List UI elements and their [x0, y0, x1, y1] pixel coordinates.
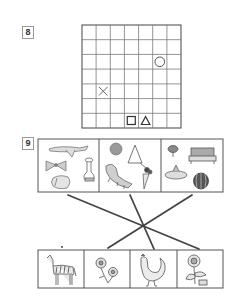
circle-symbol — [155, 57, 165, 67]
ball-icon — [110, 143, 122, 155]
sunflower-icon — [186, 255, 207, 285]
cross-symbol — [99, 87, 108, 96]
bowl-icon — [165, 165, 187, 179]
carrot-icon — [143, 168, 152, 190]
connection-lines — [68, 195, 199, 249]
cake-icon — [189, 148, 216, 164]
dot-marker — [61, 246, 63, 248]
triangle-symbol — [141, 117, 149, 125]
zebra-icon — [47, 255, 76, 285]
watermelon-icon — [194, 173, 209, 189]
square-symbol — [127, 117, 135, 125]
crocodile-icon — [106, 164, 132, 189]
lamp-icon — [168, 146, 178, 158]
worksheet-drawing — [0, 0, 235, 307]
rooster-icon — [141, 254, 165, 286]
pillow-icon — [52, 176, 70, 189]
triangle-instrument-icon — [128, 145, 146, 168]
sink-faucet-icon — [84, 158, 94, 181]
grid-7x7 — [82, 25, 181, 128]
flowers-icon — [96, 258, 118, 283]
bow-icon — [46, 161, 66, 171]
airplane-icon — [49, 146, 88, 157]
